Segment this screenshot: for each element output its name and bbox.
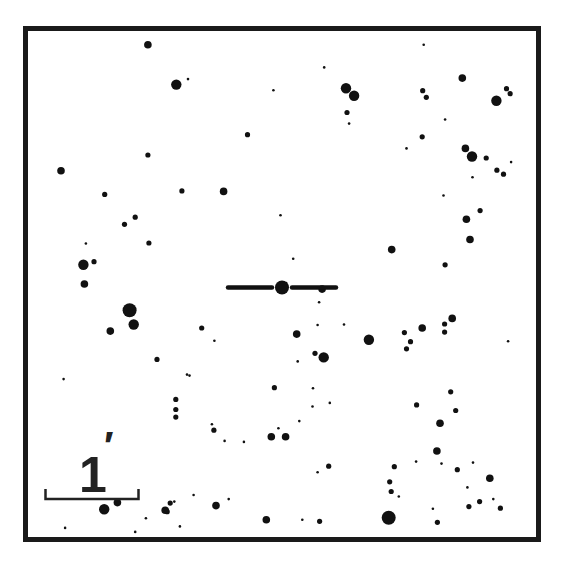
star bbox=[448, 389, 453, 394]
star bbox=[133, 215, 138, 220]
star bbox=[478, 208, 483, 213]
star bbox=[122, 222, 127, 227]
star bbox=[312, 387, 315, 390]
star bbox=[477, 499, 482, 504]
star bbox=[57, 167, 65, 175]
star bbox=[392, 464, 397, 469]
star bbox=[418, 324, 426, 332]
star bbox=[349, 91, 359, 101]
star bbox=[348, 122, 351, 125]
star bbox=[282, 433, 290, 441]
star bbox=[173, 415, 178, 420]
star bbox=[81, 280, 89, 288]
star bbox=[318, 301, 321, 304]
star bbox=[199, 325, 204, 330]
star bbox=[444, 118, 447, 121]
star bbox=[102, 192, 107, 197]
star bbox=[442, 194, 445, 197]
star bbox=[442, 330, 447, 335]
star bbox=[129, 319, 139, 329]
star bbox=[329, 402, 332, 405]
star bbox=[472, 461, 475, 464]
star bbox=[326, 464, 331, 469]
star bbox=[463, 215, 471, 223]
star bbox=[448, 315, 456, 323]
star bbox=[402, 330, 407, 335]
star bbox=[211, 423, 214, 426]
star bbox=[212, 502, 220, 510]
star bbox=[415, 460, 418, 463]
star bbox=[301, 519, 304, 522]
star bbox=[467, 151, 477, 161]
star bbox=[173, 407, 178, 412]
star bbox=[317, 519, 322, 524]
star bbox=[466, 486, 469, 489]
star bbox=[504, 86, 509, 91]
star bbox=[507, 340, 510, 343]
target-star bbox=[275, 281, 289, 295]
star bbox=[440, 462, 443, 465]
star bbox=[408, 339, 413, 344]
star bbox=[173, 500, 176, 503]
star bbox=[91, 259, 96, 264]
star bbox=[173, 397, 178, 402]
star bbox=[466, 236, 474, 244]
star bbox=[319, 352, 329, 362]
star bbox=[154, 357, 159, 362]
star bbox=[279, 214, 282, 217]
star bbox=[323, 66, 326, 69]
star bbox=[292, 257, 295, 260]
star bbox=[145, 517, 148, 520]
star bbox=[272, 385, 277, 390]
arcminute-symbol: ′ bbox=[104, 424, 114, 468]
star bbox=[484, 155, 489, 160]
star bbox=[486, 475, 494, 483]
star bbox=[311, 405, 314, 408]
star bbox=[433, 447, 441, 455]
star bbox=[494, 168, 499, 173]
star bbox=[134, 531, 137, 534]
star bbox=[459, 74, 467, 82]
star bbox=[272, 89, 275, 92]
star bbox=[510, 161, 513, 164]
star bbox=[404, 346, 409, 351]
star bbox=[422, 43, 425, 46]
star bbox=[398, 495, 401, 498]
star bbox=[293, 330, 301, 338]
star bbox=[442, 321, 447, 326]
star bbox=[64, 527, 67, 530]
finder-chart: 1 ′ bbox=[0, 0, 561, 561]
scale-bar-label: 1 bbox=[79, 447, 107, 503]
star bbox=[220, 188, 228, 196]
star bbox=[263, 516, 271, 524]
star bbox=[146, 240, 151, 245]
star bbox=[316, 324, 319, 327]
star bbox=[344, 110, 349, 115]
star bbox=[296, 360, 299, 363]
star bbox=[268, 433, 276, 441]
star bbox=[508, 91, 513, 96]
star bbox=[424, 95, 429, 100]
star bbox=[144, 41, 152, 49]
star bbox=[435, 520, 440, 525]
star bbox=[341, 83, 351, 93]
star bbox=[432, 507, 435, 510]
star bbox=[223, 440, 226, 443]
star bbox=[387, 479, 392, 484]
star bbox=[382, 511, 396, 525]
star bbox=[145, 152, 150, 157]
star bbox=[99, 504, 109, 514]
star bbox=[186, 373, 189, 376]
star bbox=[188, 374, 191, 377]
star bbox=[277, 427, 280, 430]
star bbox=[187, 78, 190, 81]
star bbox=[405, 147, 408, 150]
star bbox=[316, 471, 319, 474]
star bbox=[168, 501, 173, 506]
star bbox=[213, 339, 216, 342]
star bbox=[211, 428, 216, 433]
star bbox=[501, 172, 506, 177]
star bbox=[343, 323, 346, 326]
star bbox=[227, 498, 230, 501]
star bbox=[62, 378, 65, 381]
